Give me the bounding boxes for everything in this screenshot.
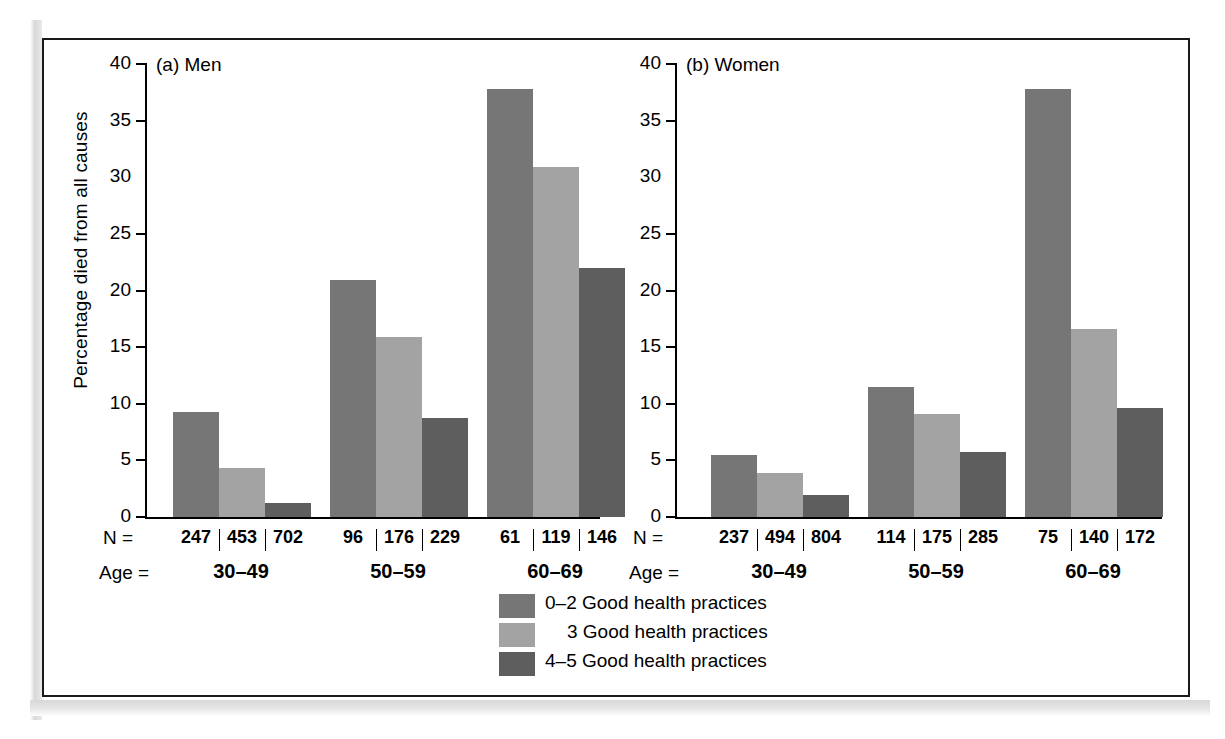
y-tick-35: 35 (666, 120, 677, 122)
y-tick-label-35: 35 (110, 109, 131, 131)
y-tick-label-30: 30 (640, 165, 661, 187)
y-tick-label-20: 20 (640, 279, 661, 301)
age-group-label: 60–69 (1023, 560, 1163, 583)
bar (376, 337, 422, 517)
n-equals-label: N = (103, 527, 133, 549)
bar (533, 167, 579, 517)
bar (579, 268, 625, 517)
panel-women-plot: 4035302520151050 (675, 64, 1175, 517)
legend-item: 0–2 Good health practices (499, 592, 929, 619)
bar-group-30–49 (711, 64, 849, 517)
legend-label: 3 Good health practices (545, 621, 867, 643)
y-tick-15: 15 (136, 346, 147, 348)
y-tick-label-35: 35 (640, 109, 661, 131)
age-group-label: 50–59 (866, 560, 1006, 583)
legend-label: 4–5 Good health practices (545, 650, 845, 672)
n-value: 453 (219, 527, 265, 548)
bar-group-50–59 (868, 64, 1006, 517)
age-group-label: 30–49 (171, 560, 311, 583)
bar-group-60–69 (487, 64, 625, 517)
y-tick-label-10: 10 (640, 392, 661, 414)
bar (803, 495, 849, 517)
y-tick-label-25: 25 (640, 222, 661, 244)
y-tick-10: 10 (666, 403, 677, 405)
bar (173, 412, 219, 517)
y-tick-20: 20 (136, 290, 147, 292)
n-value: 172 (1117, 527, 1163, 548)
bar (711, 455, 757, 517)
y-tick-25: 25 (136, 233, 147, 235)
bar (487, 89, 533, 517)
figure-frame: Percentage died from all causes (a) Men … (42, 38, 1190, 697)
bar-group-60–69 (1025, 64, 1163, 517)
age-equals-label: Age = (99, 562, 149, 584)
bar (868, 387, 914, 517)
n-value: 247 (173, 527, 219, 548)
n-value: 494 (757, 527, 803, 548)
n-value: 229 (422, 527, 468, 548)
y-tick-5: 5 (136, 459, 147, 461)
age-group-label: 60–69 (485, 560, 625, 583)
y-tick-0: 0 (666, 516, 677, 518)
bar (422, 418, 468, 517)
legend-item: 4–5 Good health practices (499, 650, 929, 677)
y-tick-label-15: 15 (110, 335, 131, 357)
n-value: 285 (960, 527, 1006, 548)
y-tick-40: 40 (666, 63, 677, 65)
n-value: 804 (803, 527, 849, 548)
y-tick-label-40: 40 (110, 52, 131, 74)
age-equals-label: Age = (629, 562, 679, 584)
n-value: 702 (265, 527, 311, 548)
bar (265, 503, 311, 517)
y-tick-label-5: 5 (650, 448, 661, 470)
n-value: 175 (914, 527, 960, 548)
bar-group-50–59 (330, 64, 468, 517)
legend-label: 0–2 Good health practices (545, 592, 845, 614)
bar (914, 414, 960, 517)
y-tick-35: 35 (136, 120, 147, 122)
y-axis-title-text: Percentage died from all causes (70, 0, 92, 510)
n-value: 146 (579, 527, 625, 548)
y-tick-30: 30 (136, 176, 147, 178)
y-tick-10: 10 (136, 403, 147, 405)
y-tick-0: 0 (136, 516, 147, 518)
y-tick-label-15: 15 (640, 335, 661, 357)
n-value: 61 (487, 527, 533, 548)
n-value: 140 (1071, 527, 1117, 548)
bar (757, 473, 803, 517)
y-tick-15: 15 (666, 346, 677, 348)
legend-swatch (499, 652, 535, 676)
bar-group-30–49 (173, 64, 311, 517)
bar (219, 468, 265, 517)
n-value: 96 (330, 527, 376, 548)
y-tick-label-5: 5 (120, 448, 131, 470)
legend: 0–2 Good health practices3 Good health p… (499, 592, 929, 679)
y-tick-label-30: 30 (110, 165, 131, 187)
n-value: 119 (533, 527, 579, 548)
legend-item: 3 Good health practices (499, 621, 929, 648)
y-tick-20: 20 (666, 290, 677, 292)
page-shadow-left (30, 20, 42, 720)
n-value: 114 (868, 527, 914, 548)
panel-men-plot: 4035302520151050 (145, 64, 617, 517)
n-value: 176 (376, 527, 422, 548)
y-axis-title: Percentage died from all causes (70, 0, 96, 510)
n-value: 75 (1025, 527, 1071, 548)
bar (1025, 89, 1071, 517)
bar (330, 280, 376, 517)
y-tick-25: 25 (666, 233, 677, 235)
y-tick-40: 40 (136, 63, 147, 65)
y-tick-label-0: 0 (120, 505, 131, 527)
y-tick-label-40: 40 (640, 52, 661, 74)
age-group-label: 30–49 (709, 560, 849, 583)
n-equals-label: N = (633, 527, 663, 549)
bar (1071, 329, 1117, 517)
y-tick-label-20: 20 (110, 279, 131, 301)
legend-swatch (499, 623, 535, 647)
y-tick-label-25: 25 (110, 222, 131, 244)
y-tick-label-0: 0 (650, 505, 661, 527)
y-tick-5: 5 (666, 459, 677, 461)
y-tick-label-10: 10 (110, 392, 131, 414)
x-axis-line (145, 517, 600, 519)
bar (960, 452, 1006, 517)
